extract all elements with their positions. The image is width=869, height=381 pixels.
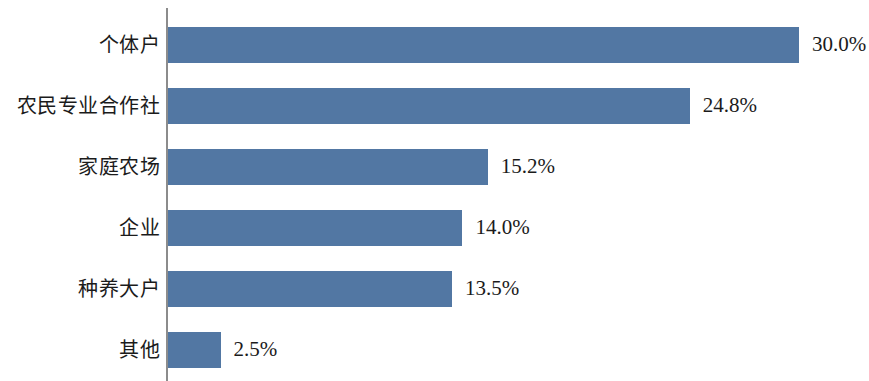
bar-row: 家庭农场 15.2% xyxy=(0,136,869,197)
bar-track: 24.8% xyxy=(168,75,757,136)
bar-fill xyxy=(168,27,799,63)
bar-value-label: 15.2% xyxy=(501,154,555,179)
horizontal-bar-chart: 个体户 30.0% 农民专业合作社 24.8% 家庭农场 15.2% 企业 14… xyxy=(0,0,869,381)
bar-track: 2.5% xyxy=(168,319,277,380)
bar-fill xyxy=(168,271,452,307)
bar-row: 其他 2.5% xyxy=(0,319,869,380)
bar-row: 企业 14.0% xyxy=(0,197,869,258)
bar-value-label: 2.5% xyxy=(234,337,278,362)
category-label: 农民专业合作社 xyxy=(17,75,161,136)
bar-track: 14.0% xyxy=(168,197,530,258)
bar-value-label: 30.0% xyxy=(812,32,866,57)
bar-track: 30.0% xyxy=(168,14,866,75)
bar-row: 农民专业合作社 24.8% xyxy=(0,75,869,136)
bar-fill xyxy=(168,149,488,185)
bar-track: 15.2% xyxy=(168,136,555,197)
bar-track: 13.5% xyxy=(168,258,519,319)
bar-value-label: 13.5% xyxy=(465,276,519,301)
category-label: 个体户 xyxy=(99,14,161,75)
bar-fill xyxy=(168,332,221,368)
category-label: 家庭农场 xyxy=(78,136,160,197)
bar-row: 种养大户 13.5% xyxy=(0,258,869,319)
category-label: 种养大户 xyxy=(78,258,160,319)
category-label: 企业 xyxy=(119,197,160,258)
bar-value-label: 14.0% xyxy=(475,215,529,240)
bar-fill xyxy=(168,210,462,246)
bar-value-label: 24.8% xyxy=(703,93,757,118)
bar-row: 个体户 30.0% xyxy=(0,14,869,75)
category-label: 其他 xyxy=(119,319,160,380)
bar-fill xyxy=(168,88,690,124)
